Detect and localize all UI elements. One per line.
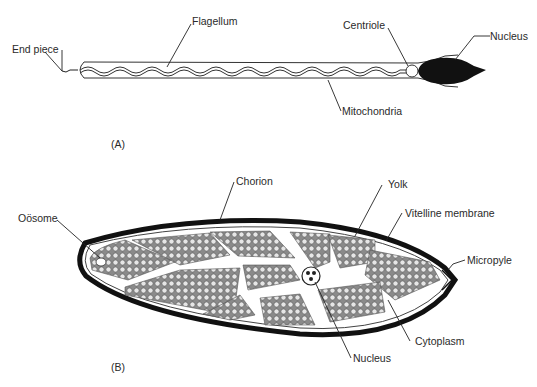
sperm-diagram [45, 24, 490, 111]
diagram-canvas [0, 0, 537, 387]
label-chorion: Chorion [236, 176, 273, 187]
label-cytoplasm: Cytoplasm [415, 336, 465, 347]
caption-a: (A) [111, 139, 125, 150]
label-flagellum: Flagellum [192, 16, 238, 27]
label-centriole: Centriole [343, 20, 385, 31]
label-vitelline-membrane: Vitelline membrane [405, 208, 495, 219]
label-nucleus-a: Nucleus [490, 31, 528, 42]
label-oosome: Oösome [18, 213, 58, 224]
label-nucleus-b: Nucleus [353, 353, 391, 364]
label-micropyle: Micropyle [467, 255, 512, 266]
label-mitochondria: Mitochondria [342, 106, 402, 117]
egg-nucleus-shape [302, 267, 320, 285]
label-yolk: Yolk [388, 179, 407, 190]
label-end-piece: End piece [12, 44, 59, 55]
oosome-shape [96, 258, 106, 266]
centriole-shape [406, 65, 418, 77]
sperm-nucleus-shape [418, 58, 486, 85]
caption-b: (B) [111, 362, 125, 373]
egg-diagram [57, 182, 465, 358]
